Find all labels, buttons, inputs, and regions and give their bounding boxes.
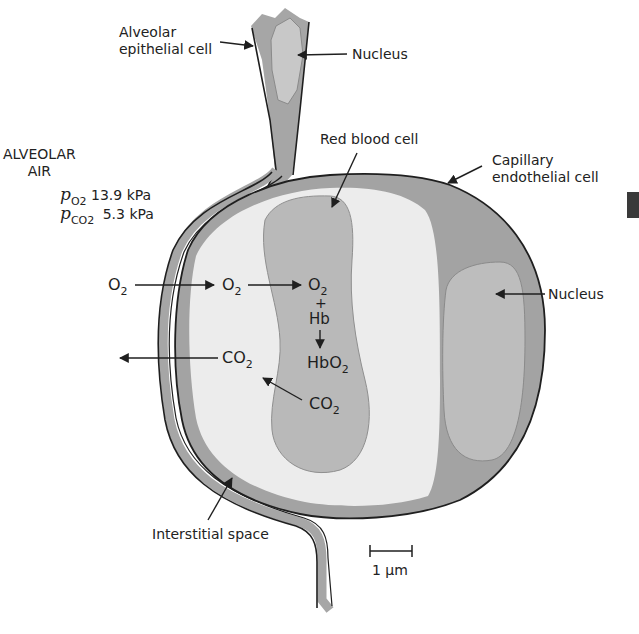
scale-bar <box>370 545 412 557</box>
red-blood-cell-label: Red blood cell <box>320 131 418 148</box>
page-edge-tab <box>627 192 639 218</box>
alveolar-air-line1: ALVEOLAR <box>3 146 76 163</box>
arrow-alveolar-epithelial <box>220 42 253 46</box>
capillary-endothelial-cell <box>175 174 545 518</box>
po2-symbol: p <box>60 184 71 204</box>
alveolar-epithelial-label: Alveolar epithelial cell <box>119 24 212 58</box>
arrow-capillary-endothelial <box>448 166 482 183</box>
po2-value: 13.9 kPa <box>91 187 151 203</box>
pco2-reading: pCO2 5.3 kPa <box>60 205 154 223</box>
capillary-endothelial-label: Capillary endothelial cell <box>492 152 599 186</box>
arrow-nucleus-top <box>298 54 347 55</box>
o2-alveolar-air: O2 <box>108 276 128 294</box>
hemoglobin: Hb <box>309 310 330 328</box>
scale-bar-label: 1 µm <box>372 562 408 579</box>
alveolar-air-title: ALVEOLAR AIR <box>3 146 76 180</box>
alveolar-air-line2: AIR <box>3 163 76 180</box>
nucleus-top-label: Nucleus <box>352 46 408 63</box>
co2-plasma: CO2 <box>222 349 253 367</box>
endothelial-nucleus <box>443 262 525 461</box>
nucleus-right-label: Nucleus <box>548 286 604 303</box>
alveolar-epithelial-label-line1: Alveolar <box>119 24 212 41</box>
o2-red-blood-cell: O2 <box>308 276 328 294</box>
pco2-value: 5.3 kPa <box>103 206 154 222</box>
oxyhemoglobin: HbO2 <box>307 354 349 372</box>
pco2-symbol: p <box>60 203 71 223</box>
capillary-endothelial-line1: Capillary <box>492 152 599 169</box>
interstitial-space-label: Interstitial space <box>152 526 269 543</box>
po2-reading: pO2 13.9 kPa <box>60 186 151 204</box>
o2-plasma: O2 <box>222 276 242 294</box>
pco2-subscript: CO2 <box>71 214 94 227</box>
capillary-endothelial-line2: endothelial cell <box>492 169 599 186</box>
alveolar-epithelial-label-line2: epithelial cell <box>119 41 212 58</box>
co2-red-blood-cell: CO2 <box>309 395 340 413</box>
